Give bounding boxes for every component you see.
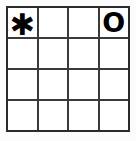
grid-cell-r1-c4[interactable]: O [100, 8, 129, 37]
grid-cell-r4-c1[interactable] [8, 101, 37, 130]
grid-cell-r3-c3[interactable] [69, 70, 98, 99]
grid-cell-r3-c1[interactable] [8, 70, 37, 99]
grid-cell-r4-c3[interactable] [69, 101, 98, 130]
letter-o-glyph: O [102, 9, 125, 36]
grid-cell-r2-c1[interactable] [8, 39, 37, 68]
grid-cell-r1-c1[interactable]: ✱ [8, 8, 37, 37]
grid-cell-r1-c3[interactable] [69, 8, 98, 37]
puzzle-container: ✱O [0, 0, 136, 141]
grid-cell-r2-c2[interactable] [39, 39, 68, 68]
grid-cell-r1-c2[interactable] [39, 8, 68, 37]
grid-cell-r3-c2[interactable] [39, 70, 68, 99]
grid-cell-r2-c3[interactable] [69, 39, 98, 68]
asterisk-glyph: ✱ [10, 10, 35, 37]
grid-cell-r4-c2[interactable] [39, 101, 68, 130]
grid-cell-r4-c4[interactable] [100, 101, 129, 130]
grid-cell-r2-c4[interactable] [100, 39, 129, 68]
grid-cell-r3-c4[interactable] [100, 70, 129, 99]
puzzle-grid: ✱O [6, 6, 130, 132]
